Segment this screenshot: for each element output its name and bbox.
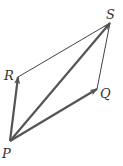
label-point-r: R	[3, 68, 14, 83]
segment-qs	[97, 23, 110, 89]
parallelogram-figure: PRQS	[0, 0, 123, 166]
vector-arrows	[10, 23, 110, 141]
vector-diagram: PRQS	[0, 0, 123, 166]
segment-rs	[18, 23, 110, 77]
label-point-q: Q	[100, 86, 111, 101]
label-point-p: P	[1, 146, 11, 161]
vector-pq-arrow-icon	[10, 89, 97, 141]
label-point-s: S	[106, 7, 115, 22]
vector-ps-arrow-icon	[10, 23, 110, 141]
thin-segments	[18, 23, 110, 89]
